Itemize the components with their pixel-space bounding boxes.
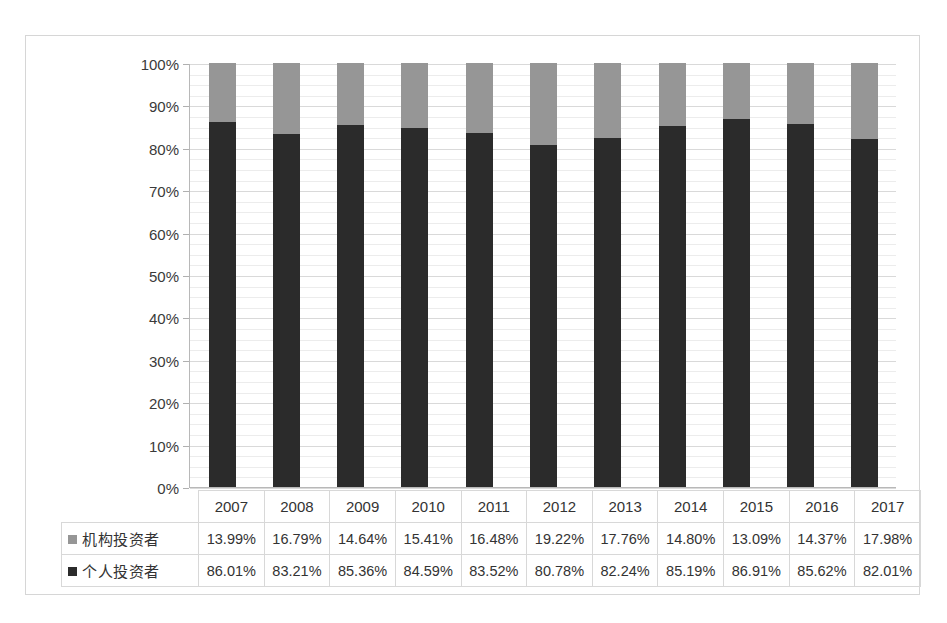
- plot-region: 0%10%20%30%40%50%60%70%80%90%100%: [189, 64, 896, 488]
- column-header-year: 2016: [789, 491, 855, 523]
- bar-segment-individual-investors: [466, 133, 493, 487]
- y-axis-tick-mark: [183, 276, 189, 277]
- bar-column: [530, 63, 557, 487]
- y-axis-tick-mark: [183, 149, 189, 150]
- table-cell-value: 86.01%: [199, 555, 265, 587]
- y-axis-tick-mark: [183, 191, 189, 192]
- y-axis-tick-mark: [183, 318, 189, 319]
- table-cell-value: 82.01%: [855, 555, 921, 587]
- column-header-year: 2014: [658, 491, 724, 523]
- y-axis-tick-label: 60%: [115, 225, 179, 242]
- bar-segment-institutional-investors: [659, 63, 686, 126]
- bar-segment-individual-investors: [723, 119, 750, 487]
- table-cell-value: 16.48%: [461, 523, 527, 555]
- column-header-year: 2007: [199, 491, 265, 523]
- bar-segment-institutional-investors: [530, 63, 557, 144]
- data-table-body: 2007200820092010201120122013201420152016…: [62, 491, 921, 587]
- bar-column: [787, 63, 814, 487]
- table-cell-value: 85.19%: [658, 555, 724, 587]
- bar-segment-individual-investors: [209, 122, 236, 487]
- bar-segment-institutional-investors: [273, 63, 300, 134]
- column-header-year: 2009: [330, 491, 396, 523]
- y-axis-tick-label: 80%: [115, 140, 179, 157]
- legend-item-institutional-investors[interactable]: 机构投资者: [62, 523, 199, 555]
- bar-segment-individual-investors: [787, 124, 814, 487]
- legend-item-individual-investors[interactable]: 个人投资者: [62, 555, 199, 587]
- table-cell-value: 13.09%: [724, 523, 790, 555]
- data-table: 2007200820092010201120122013201420152016…: [61, 490, 921, 587]
- table-cell-value: 17.76%: [592, 523, 658, 555]
- table-cell-value: 83.52%: [461, 555, 527, 587]
- y-axis-tick-label: 50%: [115, 268, 179, 285]
- bar-segment-individual-investors: [273, 134, 300, 487]
- table-row: 机构投资者13.99%16.79%14.64%15.41%16.48%19.22…: [62, 523, 921, 555]
- y-axis-tick-label: 40%: [115, 310, 179, 327]
- y-axis-tick-label: 90%: [115, 98, 179, 115]
- y-axis-tick-mark: [183, 64, 189, 65]
- y-axis-tick-mark: [183, 234, 189, 235]
- bar-segment-institutional-investors: [401, 63, 428, 128]
- table-cell-value: 86.91%: [724, 555, 790, 587]
- column-header-year: 2015: [724, 491, 790, 523]
- bar-segment-institutional-investors: [787, 63, 814, 124]
- y-axis-tick-mark: [183, 361, 189, 362]
- table-corner-cell: [62, 491, 199, 523]
- table-cell-value: 15.41%: [395, 523, 461, 555]
- bar-column: [209, 63, 236, 487]
- bar-segment-individual-investors: [851, 139, 878, 487]
- bar-segment-institutional-investors: [337, 63, 364, 125]
- table-cell-value: 14.64%: [330, 523, 396, 555]
- bar-segment-individual-investors: [401, 128, 428, 487]
- column-header-year: 2017: [855, 491, 921, 523]
- y-axis-tick-mark: [183, 446, 189, 447]
- bar-column: [659, 63, 686, 487]
- bar-column: [401, 63, 428, 487]
- table-cell-value: 83.21%: [264, 555, 330, 587]
- bar-segment-individual-investors: [659, 126, 686, 487]
- y-axis-tick-label: 70%: [115, 183, 179, 200]
- y-axis-tick-label: 100%: [115, 56, 179, 73]
- y-axis-tick-mark: [183, 488, 189, 489]
- column-header-year: 2013: [592, 491, 658, 523]
- table-cell-value: 80.78%: [527, 555, 593, 587]
- column-header-year: 2012: [527, 491, 593, 523]
- y-axis-tick-label: 10%: [115, 437, 179, 454]
- table-cell-value: 16.79%: [264, 523, 330, 555]
- bar-segment-institutional-investors: [723, 63, 750, 119]
- table-cell-value: 85.62%: [789, 555, 855, 587]
- bar-column: [273, 63, 300, 487]
- bar-segment-institutional-investors: [466, 63, 493, 133]
- table-cell-value: 13.99%: [199, 523, 265, 555]
- bar-segment-institutional-investors: [209, 63, 236, 122]
- table-cell-value: 17.98%: [855, 523, 921, 555]
- y-axis-tick-label: 20%: [115, 395, 179, 412]
- legend-label: 机构投资者: [82, 531, 160, 548]
- table-cell-value: 19.22%: [527, 523, 593, 555]
- column-header-year: 2008: [264, 491, 330, 523]
- y-axis-tick-label: 30%: [115, 352, 179, 369]
- table-cell-value: 84.59%: [395, 555, 461, 587]
- table-cell-value: 82.24%: [592, 555, 658, 587]
- column-header-year: 2011: [461, 491, 527, 523]
- bar-segment-individual-investors: [530, 145, 557, 488]
- plot-area: [189, 64, 896, 488]
- bar-segment-individual-investors: [337, 125, 364, 487]
- legend-label: 个人投资者: [82, 563, 160, 580]
- bar-column: [723, 63, 750, 487]
- table-cell-value: 85.36%: [330, 555, 396, 587]
- legend-swatch-icon: [68, 567, 77, 576]
- gridline-major: [190, 488, 896, 489]
- y-axis-tick-mark: [183, 403, 189, 404]
- bar-segment-institutional-investors: [594, 63, 621, 138]
- column-header-year: 2010: [395, 491, 461, 523]
- legend-swatch-icon: [68, 535, 77, 544]
- bar-segment-individual-investors: [594, 138, 621, 487]
- bar-column: [466, 63, 493, 487]
- bar-segment-institutional-investors: [851, 63, 878, 139]
- chart-frame: 0%10%20%30%40%50%60%70%80%90%100% 200720…: [25, 35, 920, 595]
- y-axis-tick-mark: [183, 106, 189, 107]
- table-cell-value: 14.80%: [658, 523, 724, 555]
- table-header-row: 2007200820092010201120122013201420152016…: [62, 491, 921, 523]
- table-cell-value: 14.37%: [789, 523, 855, 555]
- table-row: 个人投资者86.01%83.21%85.36%84.59%83.52%80.78…: [62, 555, 921, 587]
